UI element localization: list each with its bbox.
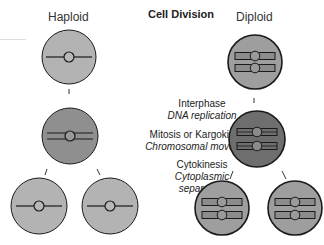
connector [282,171,286,179]
haploid-cell-top [42,30,96,84]
haploid-daughter-right [82,178,138,234]
connector [45,169,47,175]
connector [230,171,233,179]
haploid-cell-interphase [42,108,98,164]
connector [97,169,100,175]
diploid-cell-interphase [229,111,285,167]
diploid-daughter-right [268,181,322,235]
cell-division-diagram [0,0,324,245]
haploid-daughter-left [11,178,67,234]
diploid-cell-top [228,35,282,89]
diploid-daughter-left [195,181,249,235]
